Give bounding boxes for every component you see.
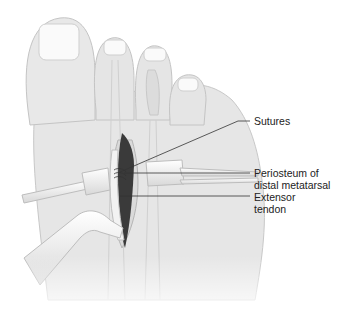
label-sutures-text: Sutures <box>254 115 290 127</box>
label-extensor-line1: Extensor <box>254 191 295 203</box>
label-sutures: Sutures <box>254 115 290 127</box>
label-periosteum-line1: Periosteum of <box>254 167 330 179</box>
label-periosteum-line2: distal metatarsal <box>254 179 330 191</box>
label-extensor-line2: tendon <box>254 203 295 215</box>
foot-surgery-illustration <box>0 0 350 320</box>
label-extensor-tendon: Extensor tendon <box>254 191 295 215</box>
label-periosteum: Periosteum of distal metatarsal <box>254 167 330 191</box>
